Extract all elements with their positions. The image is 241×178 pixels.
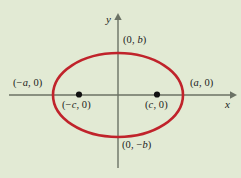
left-vertex-label: (−a, 0) bbox=[13, 78, 42, 89]
top-vertex-label: (0, b) bbox=[123, 35, 146, 46]
y-axis-arrowhead bbox=[114, 13, 121, 20]
right-vertex-label: (a, 0) bbox=[190, 78, 213, 89]
bottom-vertex-label: (0, −b) bbox=[122, 140, 151, 151]
y-axis-label: y bbox=[106, 14, 111, 25]
ellipse-graph-svg bbox=[0, 0, 241, 178]
right-focus-label: (c, 0) bbox=[145, 100, 168, 111]
left-focus-label: (−c, 0) bbox=[62, 100, 91, 111]
x-axis-arrowhead bbox=[230, 91, 237, 98]
ellipse-figure: (0, b) (0, −b) (−a, 0) (a, 0) (−c, 0) (c… bbox=[0, 0, 241, 178]
x-axis-label: x bbox=[225, 99, 230, 110]
right-focus-point bbox=[154, 91, 160, 97]
left-focus-point bbox=[76, 91, 82, 97]
